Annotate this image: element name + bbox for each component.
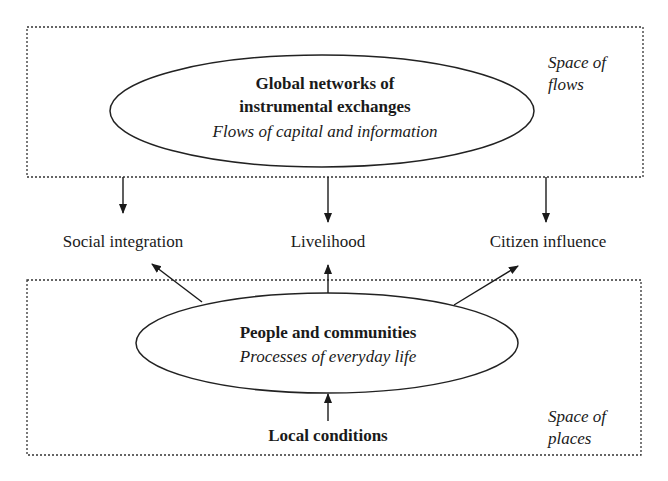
outcome-social-integration: Social integration xyxy=(43,231,203,253)
arrow-people-to-social-integration xyxy=(152,264,202,302)
arrow-people-to-citizen-influence xyxy=(454,266,518,305)
global-networks-subtitle: Flows of capital and information xyxy=(0,121,650,143)
space-of-flows-label-line1: Space of xyxy=(548,52,606,74)
people-communities-title: People and communities xyxy=(0,322,656,344)
people-communities-subtitle: Processes of everyday life xyxy=(0,346,656,368)
space-of-places-label-line2: places xyxy=(548,428,606,450)
outcome-citizen-influence: Citizen influence xyxy=(468,231,628,253)
space-of-flows-label: Space of flows xyxy=(548,52,606,96)
space-of-places-label: Space of places xyxy=(548,406,606,450)
space-of-places-label-line1: Space of xyxy=(548,406,606,428)
space-of-flows-label-line2: flows xyxy=(548,74,606,96)
global-networks-title-line2: instrumental exchanges xyxy=(0,96,650,118)
outcome-livelihood: Livelihood xyxy=(268,231,388,253)
